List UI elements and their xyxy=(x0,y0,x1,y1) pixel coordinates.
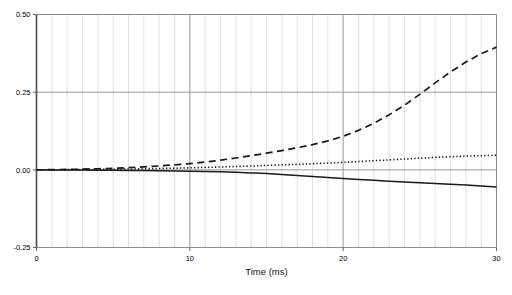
y-tick-label: 0.25 xyxy=(16,88,31,97)
x-axis-title: Time (ms) xyxy=(245,266,287,277)
x-tick-label: 20 xyxy=(339,254,347,263)
x-tick-label: 30 xyxy=(492,254,500,263)
x-tick-label: 0 xyxy=(34,254,38,263)
y-tick-label: -0.25 xyxy=(13,243,30,252)
chart-figure: 0102030 -0.250.000.250.50 Time (ms) xyxy=(0,0,512,295)
x-tick-label: 10 xyxy=(186,254,194,263)
y-tick-label: 0.00 xyxy=(16,166,31,175)
y-tick-label: 0.50 xyxy=(16,10,31,19)
